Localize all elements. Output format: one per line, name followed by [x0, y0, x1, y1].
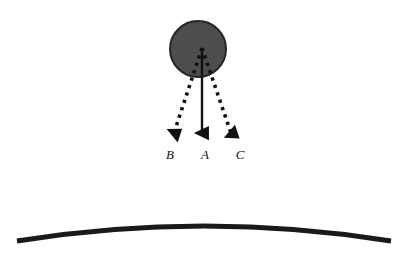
diagram-canvas [0, 0, 410, 260]
ball [170, 21, 226, 77]
vector-label-a: A [201, 148, 209, 161]
vector-label-b: B [166, 148, 174, 161]
vector-label-c: C [236, 148, 245, 161]
physics-diagram: B A C [0, 0, 410, 260]
